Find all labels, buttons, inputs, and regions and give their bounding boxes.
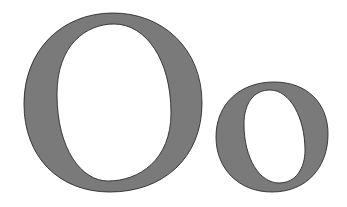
glyph-canvas [0,0,347,207]
letter-specimen: Oo [0,0,347,207]
lowercase-o-glyph [216,82,328,192]
uppercase-o-glyph [24,13,202,192]
